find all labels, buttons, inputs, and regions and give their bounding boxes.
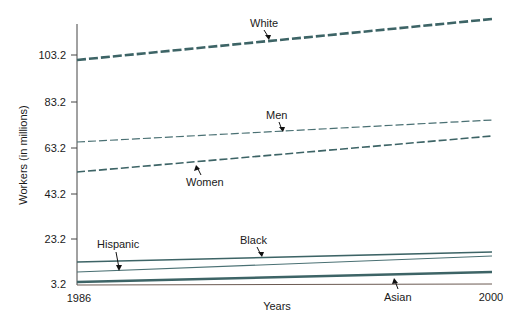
svg-text:Hispanic: Hispanic	[97, 238, 140, 250]
x-tick-1986: 1986	[67, 292, 91, 304]
svg-text:White: White	[250, 17, 278, 29]
svg-text:23.2: 23.2	[45, 233, 66, 245]
label-black: Black	[240, 234, 267, 257]
label-white: White	[250, 17, 278, 40]
line-chart: 103.2 83.2 63.2 43.2 23.2 3.2 Workers (i…	[0, 0, 516, 325]
svg-text:83.2: 83.2	[45, 96, 66, 108]
x-axis-label: Years	[263, 300, 291, 312]
svg-text:Women: Women	[186, 176, 224, 188]
series-asian	[77, 272, 492, 282]
svg-text:Men: Men	[266, 109, 287, 121]
y-tick-labels: 103.2 83.2 63.2 43.2 23.2 3.2	[38, 49, 66, 290]
label-hispanic: Hispanic	[97, 238, 140, 271]
series-men	[77, 120, 492, 142]
label-men: Men	[266, 109, 287, 132]
label-asian: Asian	[384, 278, 412, 303]
y-ticks	[71, 55, 77, 239]
x-tick-2000: 2000	[479, 291, 503, 303]
svg-text:103.2: 103.2	[38, 49, 66, 61]
series-black	[77, 252, 492, 262]
x-axis	[77, 284, 492, 285]
svg-text:Asian: Asian	[384, 291, 412, 303]
series-white	[77, 19, 492, 60]
series-women	[77, 136, 492, 172]
svg-text:3.2: 3.2	[51, 278, 66, 290]
svg-text:63.2: 63.2	[45, 142, 66, 154]
y-axis-label: Workers (in millions)	[17, 105, 29, 204]
series-hispanic	[77, 256, 492, 272]
svg-text:Black: Black	[240, 234, 267, 246]
label-women: Women	[186, 165, 224, 188]
svg-text:43.2: 43.2	[45, 188, 66, 200]
